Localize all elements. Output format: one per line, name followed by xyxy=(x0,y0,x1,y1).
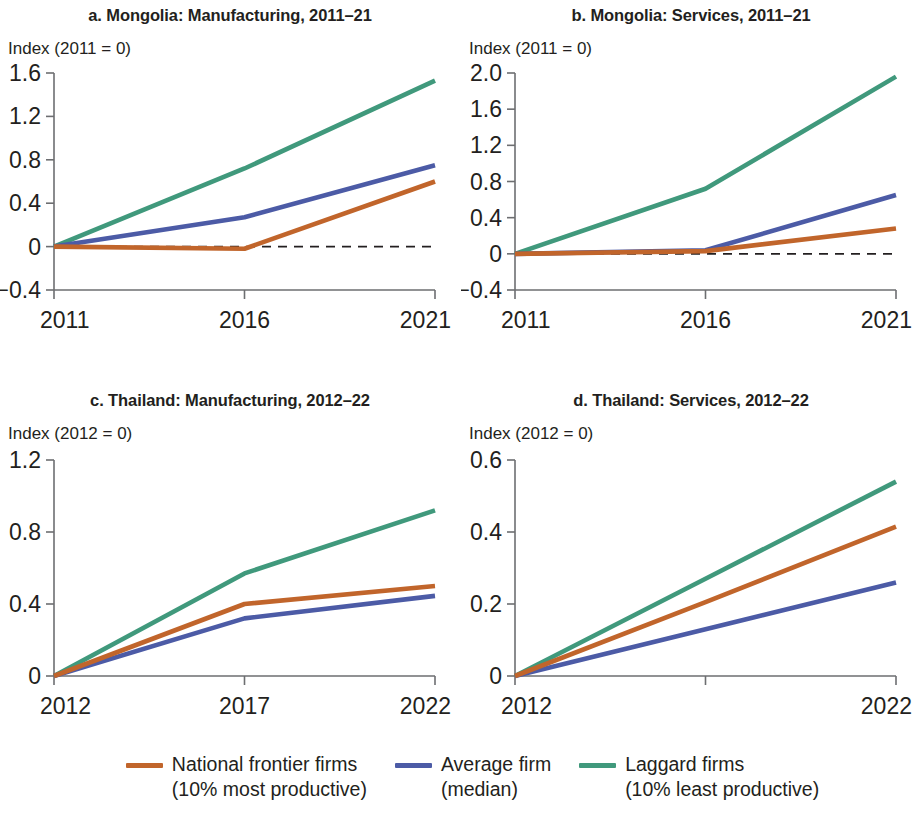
c-y-tick-label: 0.4 xyxy=(9,591,41,617)
d-x-tick-label: 2012 xyxy=(501,693,552,719)
figure-four-panel-productivity-index: a. Mongolia: Manufacturing, 2011–21 Inde… xyxy=(0,0,921,815)
d-y-tick-label: 0.2 xyxy=(470,591,502,617)
panel-b-y-axis-label: Index (2011 = 0) xyxy=(461,25,921,59)
b-y-tick-label: −0.4 xyxy=(461,277,502,303)
legend-label-average-line2: (median) xyxy=(441,777,551,802)
a-series-line xyxy=(54,81,435,247)
a-y-tick-label: 1.6 xyxy=(9,60,41,86)
a-y-tick-label: −0.4 xyxy=(0,277,41,303)
panel-b-plot-area: −0.400.40.81.21.62.0201120162021 xyxy=(461,59,921,344)
panel-d-y-axis-label: Index (2012 = 0) xyxy=(461,410,921,444)
legend-swatch-frontier-icon xyxy=(126,763,163,768)
a-x-tick-label: 2016 xyxy=(219,307,270,333)
c-series-line xyxy=(54,596,435,676)
b-y-tick-label: 1.6 xyxy=(470,96,502,122)
panel-d-plot-area: 00.20.40.620122022 xyxy=(461,444,921,729)
legend-label-frontier-line1: National frontier firms xyxy=(172,753,357,775)
chart-legend: National frontier firms (10% most produc… xyxy=(0,752,921,815)
b-y-tick-label: 0.8 xyxy=(470,169,502,195)
b-x-tick-label: 2011 xyxy=(501,307,550,333)
b-y-tick-label: 0.4 xyxy=(470,205,502,231)
legend-label-average-line1: Average firm xyxy=(441,753,551,775)
b-y-tick-label: 1.2 xyxy=(470,132,502,158)
panel-d-svg: 00.20.40.620122022 xyxy=(461,444,921,729)
legend-label-laggard-line1: Laggard firms xyxy=(625,753,744,775)
legend-label-laggard-line2: (10% least productive) xyxy=(625,777,819,802)
panel-c-y-axis-label: Index (2012 = 0) xyxy=(0,410,460,444)
c-y-tick-label: 0 xyxy=(28,663,41,689)
legend-swatch-laggard-icon xyxy=(579,763,616,768)
c-y-tick-label: 0.8 xyxy=(9,519,41,545)
c-series-line xyxy=(54,586,435,676)
c-x-tick-label: 2012 xyxy=(40,693,91,719)
a-y-tick-label: 0.8 xyxy=(9,147,41,173)
legend-item-laggard: Laggard firms (10% least productive) xyxy=(579,752,819,802)
panel-b-svg: −0.400.40.81.21.62.0201120162021 xyxy=(461,59,921,344)
a-y-tick-label: 0 xyxy=(28,234,41,260)
panel-a-svg: −0.400.40.81.21.6201120162021 xyxy=(0,59,460,344)
b-x-tick-label: 2016 xyxy=(680,307,731,333)
panel-a-title: a. Mongolia: Manufacturing, 2011–21 xyxy=(0,0,460,25)
d-y-tick-label: 0.6 xyxy=(470,447,502,473)
b-y-tick-label: 0 xyxy=(489,241,502,267)
panel-c-plot-area: 00.40.81.2201220172022 xyxy=(0,444,460,729)
panel-c-thailand-manufacturing: c. Thailand: Manufacturing, 2012–22 Inde… xyxy=(0,385,460,755)
legend-label-laggard: Laggard firms (10% least productive) xyxy=(625,752,819,802)
c-y-tick-label: 1.2 xyxy=(9,447,41,473)
legend-label-average: Average firm (median) xyxy=(441,752,551,802)
d-y-tick-label: 0 xyxy=(489,663,502,689)
panel-b-title: b. Mongolia: Services, 2011–21 xyxy=(461,0,921,25)
panel-d-title: d. Thailand: Services, 2012–22 xyxy=(461,385,921,410)
c-x-tick-label: 2022 xyxy=(400,693,451,719)
b-series-line xyxy=(515,195,896,254)
a-x-tick-label: 2021 xyxy=(400,307,451,333)
legend-swatch-average-icon xyxy=(395,763,432,768)
d-series-line xyxy=(515,482,896,676)
panel-b-mongolia-services: b. Mongolia: Services, 2011–21 Index (20… xyxy=(461,0,921,370)
b-y-tick-label: 2.0 xyxy=(470,60,502,86)
legend-label-frontier-line2: (10% most productive) xyxy=(172,777,367,802)
panel-a-mongolia-manufacturing: a. Mongolia: Manufacturing, 2011–21 Inde… xyxy=(0,0,460,370)
d-series-line xyxy=(515,582,896,676)
legend-item-average: Average firm (median) xyxy=(395,752,551,802)
b-series-line xyxy=(515,77,896,254)
panel-c-title: c. Thailand: Manufacturing, 2012–22 xyxy=(0,385,460,410)
panel-c-svg: 00.40.81.2201220172022 xyxy=(0,444,460,729)
legend-item-frontier: National frontier firms (10% most produc… xyxy=(126,752,367,802)
b-x-tick-label: 2021 xyxy=(861,307,912,333)
d-series-line xyxy=(515,527,896,676)
a-series-line xyxy=(54,165,435,246)
a-x-tick-label: 2011 xyxy=(40,307,89,333)
d-y-tick-label: 0.4 xyxy=(470,519,502,545)
panel-a-y-axis-label: Index (2011 = 0) xyxy=(0,25,460,59)
panel-a-plot-area: −0.400.40.81.21.6201120162021 xyxy=(0,59,460,344)
c-x-tick-label: 2017 xyxy=(219,693,270,719)
legend-label-frontier: National frontier firms (10% most produc… xyxy=(172,752,367,802)
d-x-tick-label: 2022 xyxy=(861,693,912,719)
a-y-tick-label: 0.4 xyxy=(9,190,41,216)
panel-d-thailand-services: d. Thailand: Services, 2012–22 Index (20… xyxy=(461,385,921,755)
a-y-tick-label: 1.2 xyxy=(9,103,41,129)
